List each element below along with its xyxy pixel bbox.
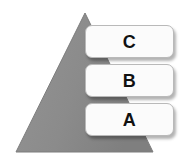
pyramid-level-a-label: A: [123, 111, 137, 129]
pyramid-diagram: C B A: [0, 0, 189, 164]
pyramid-level-b-label: B: [123, 72, 137, 90]
pyramid-level-c[interactable]: C: [85, 25, 174, 58]
pyramid-level-b[interactable]: B: [85, 64, 174, 97]
pyramid-level-a[interactable]: A: [85, 103, 174, 136]
pyramid-level-c-label: C: [123, 33, 137, 51]
